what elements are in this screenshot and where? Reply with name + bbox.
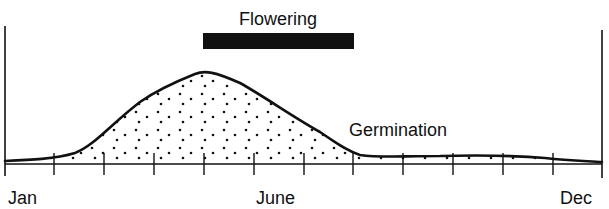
- germination-label: Germination: [349, 120, 447, 140]
- phenology-chart: Flowering Germination Jan June Dec: [0, 0, 609, 209]
- x-label-dec: Dec: [560, 188, 592, 208]
- x-label-jan: Jan: [8, 188, 37, 208]
- x-label-june: June: [256, 188, 295, 208]
- germination-area: [5, 72, 602, 163]
- flowering-label: Flowering: [239, 9, 317, 29]
- flowering-bar: [203, 33, 354, 49]
